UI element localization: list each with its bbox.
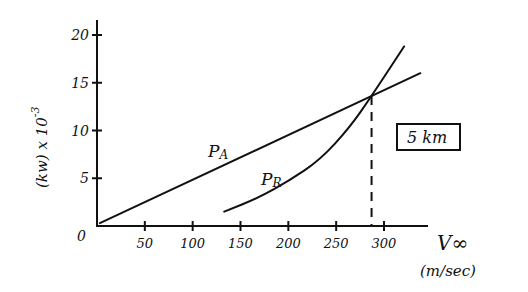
x-tick-label: 200: [275, 236, 301, 251]
x-axis-units: (m/sec): [420, 262, 476, 280]
series-label-pa: PA: [207, 141, 228, 162]
series-label-pr: PR: [260, 169, 282, 190]
x-tick-label: 100: [180, 236, 205, 251]
altitude-label: 5 km: [407, 128, 447, 147]
series: [100, 46, 420, 226]
y-axis-label: (kw) x 10-3: [29, 107, 51, 188]
x-tick-label: 150: [228, 236, 253, 251]
y-tick-label: 5: [80, 170, 89, 186]
y-tick-label: 10: [71, 123, 89, 139]
x-tick-label: 300: [372, 236, 397, 251]
annotation-box: 5 km: [397, 124, 460, 150]
origin-label: 0: [77, 228, 86, 244]
y-tick-label: 15: [71, 75, 89, 91]
x-axis-label: V∞: [437, 231, 468, 255]
x-tick-label: 50: [137, 236, 154, 251]
svg-text:(kw) x 10-3: (kw) x 10-3: [29, 107, 51, 188]
series-line-pr: [224, 46, 404, 211]
x-tick-label: 250: [323, 236, 349, 251]
y-tick-label: 20: [70, 27, 89, 43]
power-chart: 50100150200250300 5101520 0 (kw) x 10-3 …: [0, 0, 528, 292]
